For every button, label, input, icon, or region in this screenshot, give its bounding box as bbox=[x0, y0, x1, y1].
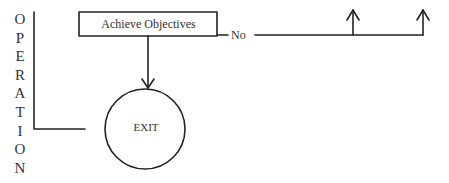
operation-bracket bbox=[34, 12, 85, 129]
exit-label: EXIT bbox=[120, 121, 172, 133]
branch-label-no: No bbox=[229, 28, 248, 43]
flowchart-lines bbox=[0, 0, 449, 183]
process-box-label: Achieve Objectives bbox=[80, 13, 217, 35]
